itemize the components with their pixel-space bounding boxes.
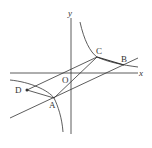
line-dc (27, 57, 97, 90)
line-ab (10, 58, 138, 118)
point-c-label: C (96, 46, 102, 56)
diagram-canvas: y x O A B C D (0, 0, 152, 148)
segment-cb (97, 57, 124, 65)
point-d-label: D (15, 85, 22, 95)
x-axis-label: x (138, 68, 143, 78)
point-b-label: B (121, 54, 127, 64)
point-d-dot (26, 89, 29, 92)
y-axis-label: y (67, 8, 72, 18)
point-a-label: A (49, 100, 56, 110)
origin-label: O (62, 75, 69, 85)
segment-ac (54, 57, 97, 98)
